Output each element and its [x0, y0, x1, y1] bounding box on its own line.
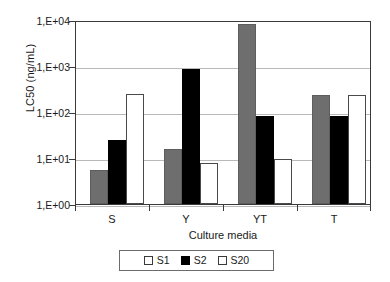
- bar-s1-t: [312, 95, 330, 204]
- legend-label: S2: [194, 255, 207, 266]
- x-axis-tick-label: T: [331, 213, 338, 225]
- y-axis-tick-label: 1,E+03: [24, 62, 70, 72]
- x-axis-tick-mark: [223, 205, 224, 211]
- plot-area: [75, 21, 371, 205]
- bar-s2-y: [182, 69, 200, 204]
- bar-s2-t: [330, 116, 348, 204]
- bar-s2-s: [108, 140, 126, 204]
- y-axis-tick-labels: 1,E+041,E+031,E+021,E+011,E+00: [20, 0, 70, 282]
- bar-s20-y: [200, 163, 218, 204]
- bar-s20-s: [126, 94, 144, 204]
- x-axis-tick-mark: [297, 205, 298, 211]
- x-axis-tick-label: S: [108, 213, 115, 225]
- legend-label: S1: [157, 255, 170, 266]
- bar-s1-yt: [238, 24, 256, 204]
- x-axis-tick-mark: [370, 205, 371, 211]
- y-axis-tick-label: 1,E+01: [24, 154, 70, 164]
- legend-entry-s1: S1: [144, 255, 170, 266]
- x-axis-tick-label: YT: [253, 213, 267, 225]
- bar-series-container: [76, 22, 370, 204]
- chart-figure: LC50 (ng/mL) 1,E+041,E+031,E+021,E+011,E…: [0, 0, 390, 282]
- y-axis-tick-label: 1,E+02: [24, 108, 70, 118]
- legend-label: S20: [231, 255, 250, 266]
- legend-entry-s2: S2: [181, 255, 207, 266]
- legend-entry-s20: S20: [218, 255, 250, 266]
- x-axis-tick-mark: [75, 205, 76, 211]
- x-axis-tick-labels: SYYTT: [75, 213, 371, 229]
- legend-swatch-icon: [181, 256, 190, 265]
- bar-s20-t: [348, 95, 366, 204]
- y-axis-tick-label: 1,E+00: [24, 200, 70, 210]
- chart-legend: S1S2S20: [119, 250, 274, 271]
- bar-s20-yt: [274, 159, 292, 204]
- bar-s1-y: [164, 149, 182, 204]
- bar-s2-yt: [256, 116, 274, 204]
- x-axis-tick-marks: [75, 205, 371, 211]
- bar-s1-s: [90, 170, 108, 204]
- x-axis-tick-label: Y: [182, 213, 189, 225]
- x-axis-tick-mark: [149, 205, 150, 211]
- y-axis-tick-label: 1,E+04: [24, 16, 70, 26]
- x-axis-title: Culture media: [75, 229, 371, 241]
- legend-swatch-icon: [218, 256, 227, 265]
- legend-swatch-icon: [144, 256, 153, 265]
